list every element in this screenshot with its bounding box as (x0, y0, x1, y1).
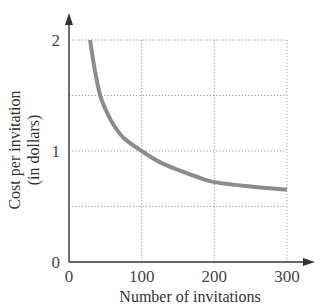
cost-per-invitation-chart: 012 0100200300 Number of invitations Cos… (0, 0, 321, 306)
x-tick-label: 0 (65, 267, 74, 286)
x-axis-arrow-icon (303, 258, 315, 266)
y-axis-label: Cost per invitation (in dollars) (6, 90, 43, 209)
gridlines (69, 40, 287, 262)
y-axis-arrow-icon (65, 13, 73, 25)
cost-curve (90, 40, 287, 190)
x-tick-label: 100 (129, 267, 155, 286)
y-tick-label: 1 (52, 142, 61, 161)
x-tick-label: 200 (202, 267, 228, 286)
x-axis-label: Number of invitations (119, 288, 260, 305)
y-tick-label: 2 (52, 31, 61, 50)
y-tick-label: 0 (52, 253, 61, 272)
y-axis-label-line2: (in dollars) (25, 115, 43, 186)
x-tick-labels: 0100200300 (65, 267, 300, 286)
y-axis-label-line1: Cost per invitation (6, 90, 24, 209)
axes (65, 13, 315, 266)
y-tick-labels: 012 (52, 31, 61, 272)
x-tick-label: 300 (274, 267, 300, 286)
